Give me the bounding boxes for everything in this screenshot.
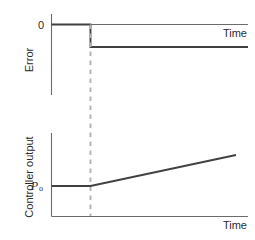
error-trace (52, 25, 249, 48)
figure-canvas: 0 Error Time P o Controller output (0, 0, 255, 240)
bottom-chart-x-axis-label: Time (223, 219, 247, 231)
bottom-chart-y-axis-label: Controller output (23, 136, 35, 217)
top-chart-error: 0 Error Time (23, 14, 248, 95)
control-response-figure: 0 Error Time P o Controller output (0, 0, 255, 240)
p0-subscript: o (39, 184, 43, 193)
bottom-chart-controller-output: P o Controller output Time (23, 133, 248, 231)
controller-output-trace (52, 155, 237, 186)
top-chart-y-axis-label: Error (23, 47, 35, 72)
top-chart-zero-label: 0 (38, 19, 44, 31)
top-chart-x-axis-label: Time (223, 27, 247, 39)
